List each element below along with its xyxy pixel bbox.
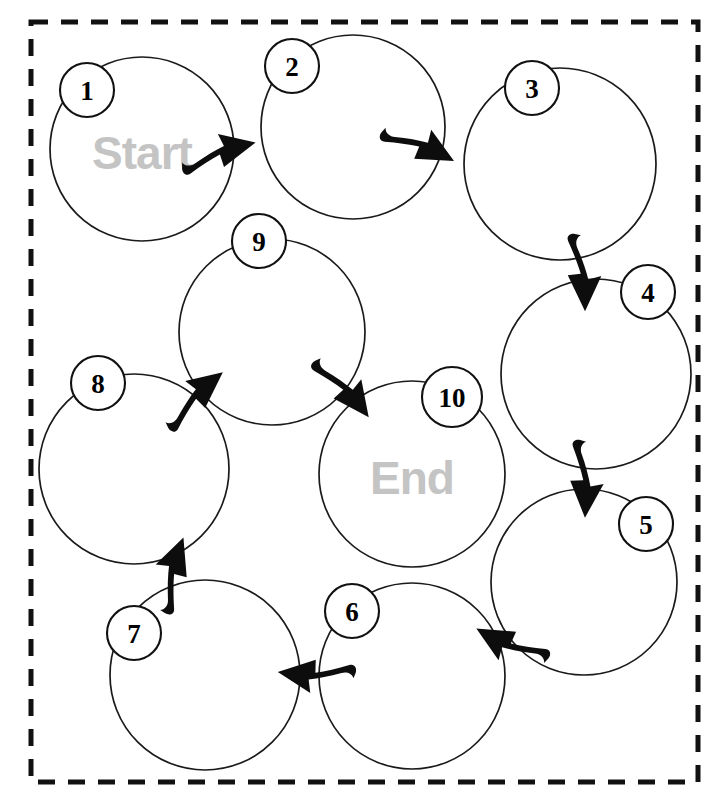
badge-number-2: 2 xyxy=(285,52,299,82)
node-badge-3[interactable]: 3 xyxy=(505,61,559,115)
badge-number-1: 1 xyxy=(80,76,94,106)
badge-number-3: 3 xyxy=(525,74,539,104)
node-badge-10[interactable]: 10 xyxy=(422,367,482,427)
badge-number-9: 9 xyxy=(252,227,266,257)
badge-number-5: 5 xyxy=(639,510,653,540)
node-label-1: Start xyxy=(92,127,192,179)
process-cycle-diagram: StartEnd12345678910 xyxy=(0,0,725,802)
badge-number-10: 10 xyxy=(439,383,466,413)
node-circle-3 xyxy=(464,68,656,260)
diagram-canvas: StartEnd12345678910 xyxy=(0,0,725,802)
node-3[interactable] xyxy=(464,68,656,260)
badge-number-4: 4 xyxy=(641,278,655,308)
badge-number-8: 8 xyxy=(91,369,105,399)
node-badge-7[interactable]: 7 xyxy=(107,606,161,660)
node-badge-5[interactable]: 5 xyxy=(619,497,673,551)
badge-number-7: 7 xyxy=(127,619,141,649)
node-label-10: End xyxy=(370,452,454,504)
node-badge-9[interactable]: 9 xyxy=(232,214,286,268)
node-badge-8[interactable]: 8 xyxy=(71,356,125,410)
node-badge-2[interactable]: 2 xyxy=(265,39,319,93)
node-badge-1[interactable]: 1 xyxy=(60,63,114,117)
node-badge-4[interactable]: 4 xyxy=(621,265,675,319)
badge-number-6: 6 xyxy=(345,597,359,627)
node-badge-6[interactable]: 6 xyxy=(325,584,379,638)
